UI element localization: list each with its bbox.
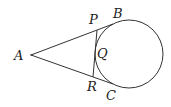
label-r: R [86, 79, 97, 94]
label-a: A [13, 48, 23, 63]
label-p: P [88, 12, 98, 27]
label-b: B [112, 6, 123, 21]
tangent-circle-diagram: A B P Q R C [0, 0, 171, 107]
label-q: Q [97, 46, 108, 61]
label-c: C [106, 88, 116, 103]
point-a-dot [30, 54, 32, 56]
